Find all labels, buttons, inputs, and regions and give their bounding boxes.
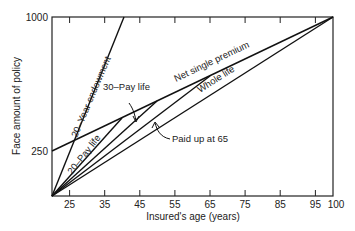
label-20-pay-life: 20–Pay life [65, 132, 103, 176]
line-30-pay-life [52, 101, 157, 196]
x-ticks-top [70, 17, 316, 23]
y-axis-label: Face amount of policy [11, 57, 22, 155]
label-paid-up-65: Paid up at 65 [172, 133, 228, 144]
svg-text:65: 65 [204, 199, 216, 210]
x-axis-label: Insured's age (years) [146, 211, 240, 222]
label-30-pay-life: 30–Pay life [103, 81, 150, 92]
svg-text:95: 95 [310, 199, 322, 210]
svg-text:100: 100 [328, 199, 345, 210]
x-tick-labels: 25 35 45 55 65 75 85 95 100 [64, 199, 345, 210]
svg-text:55: 55 [169, 199, 181, 210]
series-lines [52, 17, 333, 196]
label-20-year-endowment: 20–Year endowment [69, 54, 113, 139]
svg-text:85: 85 [275, 199, 287, 210]
svg-text:75: 75 [240, 199, 252, 210]
y-tick-label-250: 250 [31, 146, 48, 157]
svg-text:35: 35 [99, 199, 111, 210]
svg-text:45: 45 [134, 199, 146, 210]
svg-text:25: 25 [64, 199, 76, 210]
line-whole-life [52, 17, 333, 196]
y-tick-label-1000: 1000 [26, 12, 49, 23]
x-ticks [70, 190, 316, 196]
chart: 25 35 45 55 65 75 85 95 100 Insured's ag… [0, 0, 355, 231]
